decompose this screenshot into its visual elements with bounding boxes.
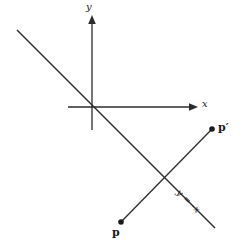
point-marker-p-prime	[209, 126, 215, 132]
reflection-diagram: y x p p′ y = -x	[0, 0, 240, 243]
y-axis-arrowhead-icon	[88, 15, 96, 24]
point-label-p: p	[112, 227, 120, 238]
diagram-canvas	[0, 0, 240, 243]
y-axis-label: y	[86, 2, 92, 12]
point-marker-p	[118, 219, 124, 225]
point-label-p-prime: p′	[218, 122, 229, 133]
x-axis-arrowhead-icon	[189, 103, 198, 111]
x-axis-label: x	[202, 99, 208, 109]
